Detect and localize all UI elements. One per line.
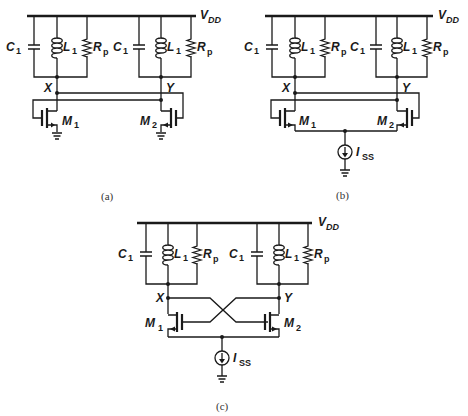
transistor-m1-icon: M 1 <box>42 108 79 139</box>
svg-text:SS: SS <box>239 358 251 368</box>
panel-c: V DD C 1 L 1 R p C 1 L 1 R <box>118 215 339 413</box>
svg-text:1: 1 <box>176 46 181 56</box>
caption-b: (b) <box>336 189 349 202</box>
circuit-figure: V DD C 1 L 1 R p C 1 L 1 <box>0 0 468 416</box>
svg-text:2: 2 <box>389 120 394 130</box>
svg-text:C: C <box>6 40 15 54</box>
inductor-l1-icon <box>392 36 403 58</box>
resistor-rp-icon <box>321 37 329 57</box>
current-source-iss-icon: I SS <box>338 131 374 176</box>
resistor-rp-icon <box>187 37 195 57</box>
svg-text:1: 1 <box>74 120 79 130</box>
svg-text:R: R <box>314 247 323 261</box>
svg-text:C: C <box>113 40 122 54</box>
svg-text:M: M <box>284 316 295 330</box>
tank-right: C 1 L 1 R p <box>113 16 213 79</box>
resistor-rp-icon <box>83 37 91 57</box>
svg-text:C: C <box>229 247 238 261</box>
svg-text:L: L <box>403 40 410 54</box>
svg-text:p: p <box>103 47 109 57</box>
panel-b: V DD C 1 L 1 R p C 1 L 1 R <box>244 8 459 202</box>
svg-text:M: M <box>299 114 310 128</box>
svg-text:1: 1 <box>158 323 163 333</box>
node-x-label: X <box>155 291 165 305</box>
svg-text:L: L <box>301 40 308 54</box>
svg-text:C: C <box>244 40 253 54</box>
svg-text:1: 1 <box>123 46 128 56</box>
vdd-label: V DD <box>200 8 221 25</box>
transistor-m1-icon: M 1 <box>145 312 182 337</box>
vdd-label: V DD <box>318 215 339 232</box>
node-x-label: X <box>281 81 291 95</box>
svg-text:1: 1 <box>72 46 77 56</box>
svg-text:I: I <box>233 351 237 365</box>
svg-text:p: p <box>207 47 213 57</box>
svg-text:2: 2 <box>296 323 301 333</box>
caption-a: (a) <box>101 190 114 203</box>
svg-text:1: 1 <box>239 253 244 263</box>
tank-left: C 1 L 1 R p <box>244 16 347 79</box>
svg-text:1: 1 <box>360 46 365 56</box>
svg-text:p: p <box>341 47 347 57</box>
svg-text:p: p <box>324 254 330 264</box>
svg-text:1: 1 <box>128 253 133 263</box>
svg-text:R: R <box>93 40 102 54</box>
panel-a: V DD C 1 L 1 R p C 1 L 1 <box>6 8 221 203</box>
transistor-m2-icon: M 2 <box>265 312 301 337</box>
svg-text:DD: DD <box>326 222 339 232</box>
inductor-l1-icon <box>290 36 301 58</box>
svg-text:M: M <box>62 114 73 128</box>
inductor-l1-icon <box>156 36 167 58</box>
svg-text:R: R <box>433 40 442 54</box>
svg-text:I: I <box>356 145 360 159</box>
node-x-label: X <box>43 81 53 95</box>
svg-text:L: L <box>167 40 174 54</box>
svg-text:M: M <box>377 114 388 128</box>
resistor-rp-icon <box>193 244 201 264</box>
node-y-label: Y <box>284 291 293 305</box>
svg-text:1: 1 <box>16 46 21 56</box>
svg-text:1: 1 <box>311 120 316 130</box>
caption-c: (c) <box>216 400 229 413</box>
svg-text:R: R <box>197 40 206 54</box>
svg-text:1: 1 <box>310 46 315 56</box>
svg-text:1: 1 <box>412 46 417 56</box>
svg-text:L: L <box>63 40 70 54</box>
svg-text:p: p <box>443 47 449 57</box>
inductor-l1-icon <box>163 243 174 265</box>
svg-text:1: 1 <box>183 253 188 263</box>
current-source-iss-icon: I SS <box>215 337 251 382</box>
svg-text:C: C <box>350 40 359 54</box>
transistor-m2-icon: M 2 <box>377 108 412 131</box>
svg-text:p: p <box>213 254 219 264</box>
svg-text:L: L <box>285 247 292 261</box>
resistor-rp-icon <box>304 244 312 264</box>
svg-text:1: 1 <box>254 46 259 56</box>
svg-text:C: C <box>118 247 127 261</box>
tank-left: C 1 L 1 R p <box>118 223 219 286</box>
vdd-label: V DD <box>438 8 459 25</box>
capacitor-c1-icon <box>133 16 191 77</box>
inductor-l1-icon <box>274 243 285 265</box>
svg-text:SS: SS <box>362 152 374 162</box>
svg-text:1: 1 <box>294 253 299 263</box>
resistor-rp-icon <box>423 37 431 57</box>
svg-text:DD: DD <box>208 15 221 25</box>
svg-text:R: R <box>331 40 340 54</box>
transistor-m2-icon: M 2 <box>140 108 176 139</box>
capacitor-c1-icon <box>370 16 427 77</box>
transistor-m1-icon: M 1 <box>280 108 316 131</box>
svg-text:M: M <box>140 114 151 128</box>
tank-right: C 1 L 1 R p <box>350 16 449 79</box>
svg-text:M: M <box>145 316 156 330</box>
inductor-l1-icon <box>52 36 63 58</box>
svg-text:R: R <box>203 247 212 261</box>
tank-left: C 1 L 1 R p <box>6 16 109 79</box>
tank-right: C 1 L 1 R p <box>229 223 330 286</box>
svg-text:DD: DD <box>446 15 459 25</box>
svg-text:2: 2 <box>152 120 157 130</box>
svg-text:L: L <box>174 247 181 261</box>
